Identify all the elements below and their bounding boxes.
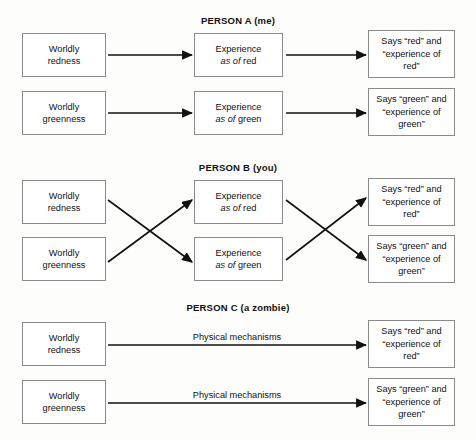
italic-as-of: as of xyxy=(216,114,236,124)
box-person-b-says-red: Says “red” and “experience of red” xyxy=(368,178,455,226)
box-person-a-worldly-greenness: Worldly greenness xyxy=(22,91,106,135)
section-title-person-b: PERSON B (you) xyxy=(0,162,476,173)
edge-label-physical-mechanisms-red: Physical mechanisms xyxy=(0,332,475,342)
box-person-b-worldly-redness: Worldly redness xyxy=(22,180,106,224)
box-label: Experienceas of green xyxy=(197,101,280,126)
box-person-c-says-green: Says “green” and “experience of green” xyxy=(368,378,455,426)
italic-as-of: as of xyxy=(216,260,236,270)
box-label: Experienceas of red xyxy=(197,190,280,215)
box-person-b-worldly-greenness: Worldly greenness xyxy=(22,237,106,281)
box-label: Experienceas of green xyxy=(197,247,280,272)
qualia-diagram: PERSON A (me)Worldly rednessWorldly gree… xyxy=(0,0,476,440)
box-person-b-experience-red: Experienceas of red xyxy=(194,180,283,224)
box-label: Worldly redness xyxy=(25,190,103,215)
box-person-a-says-red: Says “red” and “experience of red” xyxy=(368,30,455,78)
box-person-a-experience-red: Experienceas of red xyxy=(194,33,283,77)
box-person-a-experience-green: Experienceas of green xyxy=(194,91,283,135)
box-person-a-says-green: Says “green” and “experience of green” xyxy=(368,88,455,136)
box-label: Says “red” and “experience of red” xyxy=(371,183,452,221)
box-label: Worldly redness xyxy=(25,43,103,68)
section-title-person-a: PERSON A (me) xyxy=(0,15,476,26)
box-label: Says “green” and “experience of green” xyxy=(371,240,452,278)
italic-as-of: as of xyxy=(221,203,241,213)
edge-label-physical-mechanisms-green: Physical mechanisms xyxy=(0,390,475,400)
box-person-c-worldly-greenness: Worldly greenness xyxy=(22,380,106,424)
italic-as-of: as of xyxy=(221,56,241,66)
box-label: Says “green” and “experience of green” xyxy=(371,383,452,421)
box-label: Says “red” and “experience of red” xyxy=(371,325,452,363)
box-person-a-worldly-redness: Worldly redness xyxy=(22,33,106,77)
box-label: Says “red” and “experience of red” xyxy=(371,35,452,73)
box-person-b-experience-green: Experienceas of green xyxy=(194,237,283,281)
box-label: Worldly greenness xyxy=(25,247,103,272)
section-title-person-c: PERSON C (a zombie) xyxy=(0,302,476,313)
box-person-b-says-green: Says “green” and “experience of green” xyxy=(368,235,455,283)
box-person-c-worldly-redness: Worldly redness xyxy=(22,322,106,366)
box-label: Worldly greenness xyxy=(25,101,103,126)
box-label: Says “green” and “experience of green” xyxy=(371,93,452,131)
box-label: Experienceas of red xyxy=(197,43,280,68)
box-person-c-says-red: Says “red” and “experience of red” xyxy=(368,320,455,368)
